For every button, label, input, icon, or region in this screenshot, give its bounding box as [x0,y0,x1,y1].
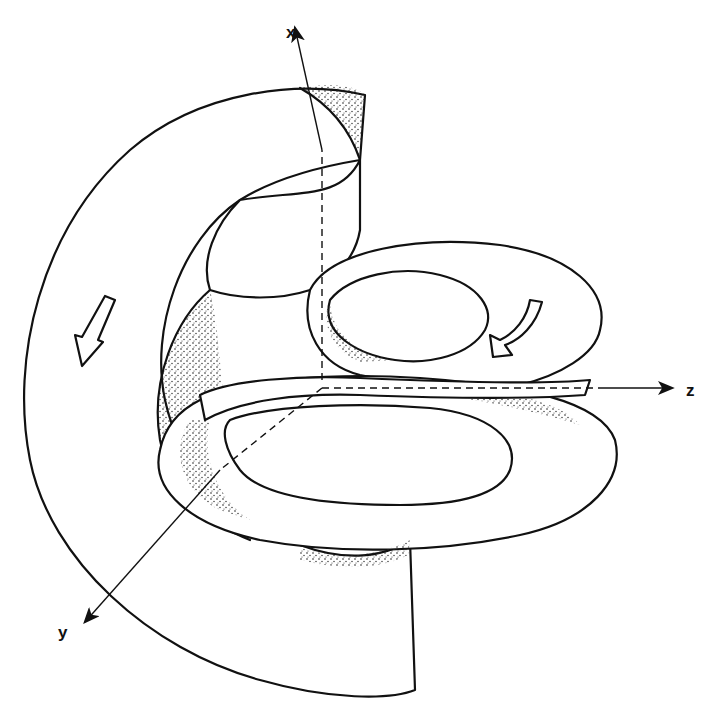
z-axis-label: z [686,381,695,400]
x-axis-label: x [286,23,296,42]
upper-right-loop [307,242,601,389]
y-axis-label: y [58,623,68,642]
surface-diagram: x z y [0,0,717,712]
